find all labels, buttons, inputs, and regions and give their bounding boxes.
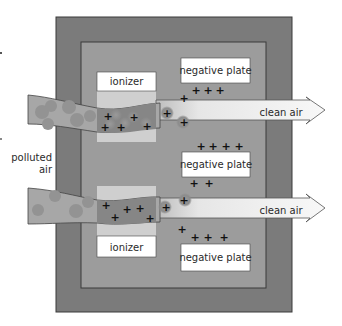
- edge-mark: [0, 138, 2, 140]
- svg-text:negative plate: negative plate: [180, 159, 252, 170]
- svg-text:ionizer: ionizer: [110, 242, 144, 253]
- negative-plate-top: negative plate: [179, 58, 251, 83]
- svg-text:+: +: [135, 202, 144, 215]
- svg-text:+: +: [203, 231, 212, 244]
- svg-text:+: +: [101, 199, 110, 212]
- svg-text:+: +: [219, 231, 228, 244]
- svg-text:+: +: [221, 140, 230, 153]
- svg-text:+: +: [191, 84, 200, 97]
- svg-text:+: +: [122, 203, 131, 216]
- air-cleaner-diagram: + + + + + + + + + + + + + + + + + + + + …: [0, 0, 342, 326]
- svg-text:+: +: [179, 92, 188, 105]
- ionizer-label-bottom: ionizer: [97, 236, 156, 257]
- svg-text:+: +: [142, 120, 151, 133]
- svg-text:+: +: [129, 111, 138, 124]
- negative-plate-middle: negative plate: [180, 152, 252, 177]
- svg-text:ionizer: ionizer: [110, 76, 144, 87]
- svg-text:negative plate: negative plate: [179, 65, 251, 76]
- svg-text:+: +: [234, 140, 243, 153]
- svg-text:+: +: [110, 211, 119, 224]
- svg-text:negative plate: negative plate: [179, 252, 251, 263]
- clean-air-label-bottom: clean air: [259, 205, 303, 216]
- polluted-air-label-line2: air: [39, 164, 53, 175]
- svg-text:+: +: [161, 201, 170, 214]
- svg-text:+: +: [208, 140, 217, 153]
- svg-text:+: +: [145, 212, 154, 225]
- polluted-air-label-line1: polluted: [11, 152, 52, 163]
- svg-text:+: +: [203, 84, 212, 97]
- svg-text:+: +: [179, 116, 188, 129]
- svg-text:+: +: [116, 121, 125, 134]
- svg-text:+: +: [204, 177, 213, 190]
- svg-text:+: +: [162, 107, 171, 120]
- negative-plate-bottom: negative plate: [179, 244, 251, 271]
- svg-text:+: +: [100, 121, 109, 134]
- svg-text:+: +: [179, 194, 188, 207]
- svg-text:+: +: [190, 231, 199, 244]
- svg-text:+: +: [177, 223, 186, 236]
- ionizer-label-top: ionizer: [97, 72, 156, 91]
- clean-air-label-top: clean air: [259, 107, 303, 118]
- svg-text:+: +: [189, 177, 198, 190]
- svg-text:+: +: [215, 84, 224, 97]
- edge-mark: [0, 52, 2, 54]
- svg-text:+: +: [196, 140, 205, 153]
